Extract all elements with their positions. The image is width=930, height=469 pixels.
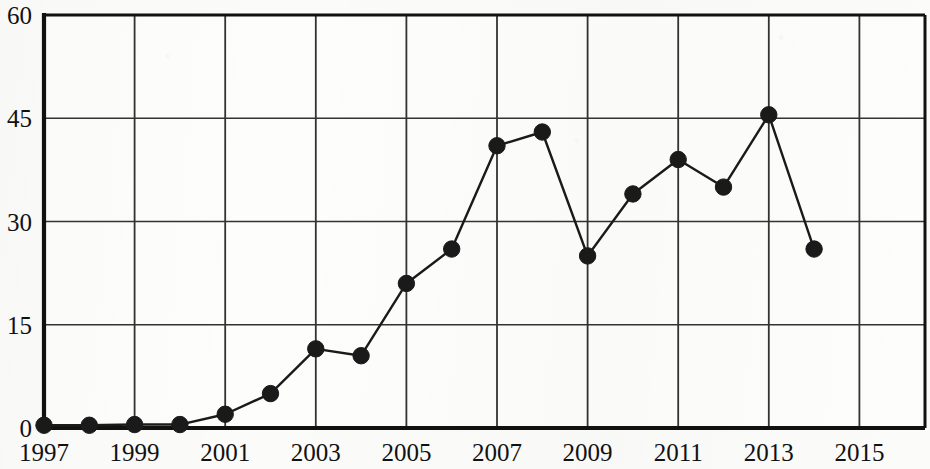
x-axis-tick-labels: 1997199920012003200520072009201120132015: [19, 439, 884, 466]
x-axis-tick-label: 2009: [563, 439, 613, 466]
y-axis-tick-label: 0: [20, 415, 33, 442]
y-axis-tick-label: 60: [7, 2, 32, 29]
data-point-marker: [81, 417, 97, 433]
data-point-marker: [444, 241, 460, 257]
x-axis-tick-label: 1999: [110, 439, 160, 466]
y-axis-tick-labels: 015304560: [7, 2, 32, 442]
data-point-marker: [308, 341, 324, 357]
x-axis-tick-label: 2015: [834, 439, 884, 466]
data-point-marker: [262, 385, 278, 401]
y-axis-tick-label: 45: [7, 105, 32, 132]
y-axis-tick-label: 30: [7, 209, 32, 236]
data-point-marker: [625, 186, 641, 202]
data-point-marker: [534, 124, 550, 140]
data-point-marker: [172, 416, 188, 432]
data-point-marker: [761, 107, 777, 123]
data-point-marker: [579, 248, 595, 264]
data-point-marker: [806, 241, 822, 257]
line-chart: 015304560 199719992001200320052007200920…: [0, 0, 930, 469]
x-axis-tick-label: 2003: [291, 439, 341, 466]
data-point-marker: [126, 416, 142, 432]
x-axis-tick-label: 2013: [744, 439, 794, 466]
data-point-marker: [398, 275, 414, 291]
data-point-marker: [670, 151, 686, 167]
data-point-marker: [36, 417, 52, 433]
x-axis-tick-label: 2007: [472, 439, 522, 466]
data-point-marker: [353, 348, 369, 364]
data-point-marker: [489, 138, 505, 154]
x-axis-tick-label: 2011: [654, 439, 703, 466]
x-axis-tick-label: 1997: [19, 439, 69, 466]
chart-page: 015304560 199719992001200320052007200920…: [0, 0, 930, 469]
x-axis-tick-label: 2005: [381, 439, 431, 466]
data-point-marker: [715, 179, 731, 195]
x-axis-tick-label: 2001: [200, 439, 250, 466]
data-point-marker: [217, 406, 233, 422]
y-axis-tick-label: 15: [7, 312, 32, 339]
